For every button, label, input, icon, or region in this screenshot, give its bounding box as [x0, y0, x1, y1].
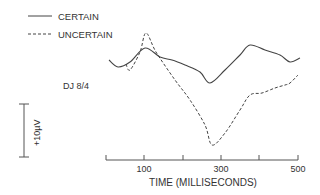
legend-label-uncertain: UNCERTAIN [58, 29, 113, 40]
legend: CERTAIN UNCERTAIN [28, 11, 113, 40]
x-tick-label-300: 300 [213, 164, 228, 174]
series-uncertain-line [126, 33, 298, 145]
series-certain-line [109, 45, 300, 83]
scale-bar: +10µV [19, 104, 42, 157]
x-axis-title: TIME (MILLISECONDS) [149, 177, 257, 188]
x-tick-label-500: 500 [290, 164, 305, 174]
scale-bar-label: +10µV [32, 120, 42, 146]
x-axis: 100 300 500 TIME (MILLISECONDS) [106, 155, 306, 188]
subject-label: DJ 8/4 [63, 81, 89, 91]
legend-label-certain: CERTAIN [58, 11, 99, 22]
erp-chart: CERTAIN UNCERTAIN DJ 8/4 +10µV 100 300 5… [0, 0, 320, 195]
x-tick-label-100: 100 [136, 164, 151, 174]
